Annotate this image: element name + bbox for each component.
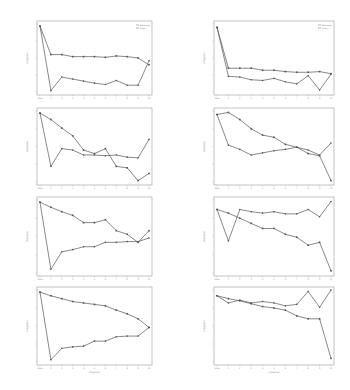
data-point	[94, 153, 96, 155]
data-point	[216, 114, 218, 116]
x-tick-label: 8	[307, 97, 309, 100]
x-tick-label: 4	[262, 367, 264, 370]
x-tick-label: 9	[137, 97, 139, 100]
chart-panel-r3c1: base12345678910(illegible)	[26, 197, 152, 281]
series-line-query	[217, 27, 331, 90]
x-tick-label: 8	[126, 367, 128, 370]
data-point	[72, 56, 74, 58]
x-tick-label: 6	[285, 367, 287, 370]
x-tick-label: 2	[61, 278, 63, 281]
data-point	[61, 211, 63, 213]
x-tick-label: 3	[72, 187, 74, 190]
data-point	[137, 57, 139, 59]
data-point	[126, 56, 128, 58]
data-point	[228, 144, 230, 146]
data-point	[50, 359, 52, 361]
x-tick-label: 1	[50, 367, 52, 370]
x-tick-label: 7	[296, 97, 298, 100]
x-tick-label: 9	[319, 278, 321, 281]
x-tick-label: 10	[148, 278, 151, 281]
data-point	[148, 139, 150, 141]
x-tick-label: 1	[228, 367, 230, 370]
x-tick-label: 6	[105, 187, 107, 190]
data-point	[307, 318, 309, 320]
data-point	[126, 335, 128, 337]
data-point	[307, 291, 309, 293]
data-point	[307, 71, 309, 73]
data-point	[296, 315, 298, 317]
figure: base12345678910(illegible)ReferenceQuery…	[0, 0, 350, 390]
data-point	[262, 80, 264, 82]
data-point	[94, 340, 96, 342]
data-point	[330, 289, 332, 291]
x-tick-label: 6	[285, 187, 287, 190]
x-tick-label: 3	[250, 97, 252, 100]
data-point	[330, 74, 332, 76]
data-point	[216, 295, 218, 297]
y-axis-label: (illegible)	[26, 231, 29, 242]
x-tick-label: 7	[116, 367, 118, 370]
data-point	[273, 307, 275, 309]
data-point	[262, 69, 264, 71]
data-point	[239, 76, 241, 78]
x-tick-label: base	[37, 278, 43, 281]
x-tick-label: 4	[83, 367, 85, 370]
x-tick-label: 5	[94, 97, 96, 100]
series-line-reference	[217, 209, 331, 270]
data-point	[126, 156, 128, 158]
data-point	[330, 180, 332, 182]
data-point	[105, 148, 107, 150]
data-point	[126, 84, 128, 86]
x-tick-label: 1	[228, 187, 230, 190]
x-tick-label: 5	[94, 278, 96, 281]
data-point	[116, 242, 118, 244]
panel-frame	[37, 108, 152, 185]
data-point	[239, 299, 241, 301]
data-point	[307, 153, 309, 155]
data-point	[39, 291, 41, 293]
x-tick-label: 10	[148, 187, 151, 190]
x-tick-label: base	[37, 187, 43, 190]
y-axis-label: (illegible)	[203, 320, 206, 331]
x-tick-label: 3	[250, 367, 252, 370]
data-point	[319, 216, 321, 218]
data-point	[105, 340, 107, 342]
y-axis-label: (illegible)	[203, 231, 206, 242]
data-point	[83, 154, 85, 156]
y-axis-label: (illegible)	[26, 52, 29, 63]
data-point	[273, 78, 275, 80]
x-tick-label: 7	[296, 278, 298, 281]
data-point	[148, 327, 150, 329]
data-point	[239, 217, 241, 219]
data-point	[105, 57, 107, 59]
data-point	[50, 90, 52, 92]
data-point	[319, 154, 321, 156]
data-point	[250, 154, 252, 156]
data-point	[250, 67, 252, 69]
data-point	[250, 128, 252, 130]
data-point	[285, 144, 287, 146]
x-tick-label: 1	[228, 278, 230, 281]
data-point	[262, 212, 264, 214]
x-tick-label: 10	[148, 97, 151, 100]
data-point	[228, 302, 230, 304]
x-tick-label: 5	[273, 367, 275, 370]
x-tick-label: 8	[307, 187, 309, 190]
data-point	[50, 119, 52, 121]
data-point	[239, 149, 241, 151]
data-point	[262, 228, 264, 230]
data-point	[239, 67, 241, 69]
x-tick-label: 7	[116, 97, 118, 100]
x-tick-label: 9	[319, 187, 321, 190]
data-point	[105, 242, 107, 244]
data-point	[330, 358, 332, 360]
data-point	[126, 241, 128, 243]
x-tick-label: 3	[72, 367, 74, 370]
x-tick-label: 9	[137, 278, 139, 281]
data-point	[228, 298, 230, 300]
data-point	[50, 166, 52, 168]
x-tick-label: 6	[105, 278, 107, 281]
data-point	[296, 83, 298, 85]
x-tick-label: 2	[61, 367, 63, 370]
data-point	[273, 136, 275, 138]
